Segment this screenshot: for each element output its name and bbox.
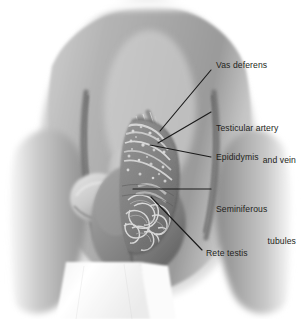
label-rete-testis: Rete testis (206, 248, 248, 258)
label-testicular-artery-and-vein: Testicular artery and vein (216, 102, 296, 187)
label-seminiferous-line1: Seminiferous (216, 204, 296, 215)
label-epididymis: Epididymis (216, 152, 259, 162)
anatomy-figure: Vas deferens Testicular artery and vein … (0, 0, 302, 319)
label-vas-deferens: Vas deferens (216, 60, 267, 70)
label-seminiferous-line2: tubules (216, 236, 296, 247)
label-testicular-artery-line1: Testicular artery (216, 123, 296, 134)
